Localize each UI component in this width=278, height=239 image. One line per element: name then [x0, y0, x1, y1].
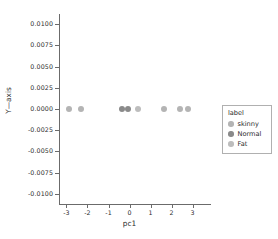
y-tick-label: -0.0075: [0, 169, 53, 176]
x-tick-label: 0: [120, 209, 140, 216]
scatter-plot-figure: 0.01000.00750.00500.00250.0000-0.0025-0.…: [0, 0, 278, 239]
data-point: [125, 106, 131, 112]
legend: label skinnyNormalFat: [222, 105, 272, 154]
legend-item-label: Normal: [238, 130, 262, 138]
y-tick-label: 0.0100: [0, 20, 53, 27]
y-tick-label: 0.0050: [0, 63, 53, 70]
x-tick-label: -2: [77, 209, 97, 216]
legend-marker-icon: [228, 141, 234, 147]
y-tick-mark: [55, 194, 59, 195]
x-tick-label: -3: [56, 209, 76, 216]
x-tick-label: 2: [162, 209, 182, 216]
legend-item[interactable]: Normal: [227, 129, 267, 139]
x-tick-mark: [87, 204, 88, 208]
y-tick-label: -0.0100: [0, 190, 53, 197]
data-point: [66, 106, 72, 112]
legend-title: label: [227, 109, 267, 117]
data-point: [161, 106, 167, 112]
x-tick-label: 1: [141, 209, 161, 216]
y-tick-mark: [55, 24, 59, 25]
data-point: [135, 106, 141, 112]
y-tick-mark: [55, 151, 59, 152]
legend-item[interactable]: skinny: [227, 119, 267, 129]
y-tick-mark: [55, 88, 59, 89]
x-tick-mark: [66, 204, 67, 208]
y-tick-mark: [55, 130, 59, 131]
y-tick-label: -0.0050: [0, 147, 53, 154]
y-tick-label: 0.0075: [0, 41, 53, 48]
x-tick-mark: [193, 204, 194, 208]
x-axis-title: pc1: [59, 219, 200, 228]
legend-item[interactable]: Fat: [227, 139, 267, 149]
legend-marker-icon: [228, 131, 234, 137]
y-tick-mark: [55, 109, 59, 110]
x-tick-mark: [172, 204, 173, 208]
x-axis-spine: [59, 204, 211, 205]
legend-item-label: Fat: [238, 140, 248, 148]
x-tick-mark: [151, 204, 152, 208]
data-point: [185, 106, 191, 112]
legend-marker-icon: [228, 121, 234, 127]
legend-entries: skinnyNormalFat: [227, 119, 267, 149]
y-tick-mark: [55, 45, 59, 46]
y-tick-mark: [55, 173, 59, 174]
x-tick-mark: [130, 204, 131, 208]
legend-item-label: skinny: [238, 120, 259, 128]
x-tick-label: -1: [99, 209, 119, 216]
y-axis-title: Y—axis: [4, 71, 13, 131]
y-tick-mark: [55, 67, 59, 68]
x-tick-label: 3: [183, 209, 203, 216]
data-point: [78, 106, 84, 112]
x-tick-mark: [109, 204, 110, 208]
